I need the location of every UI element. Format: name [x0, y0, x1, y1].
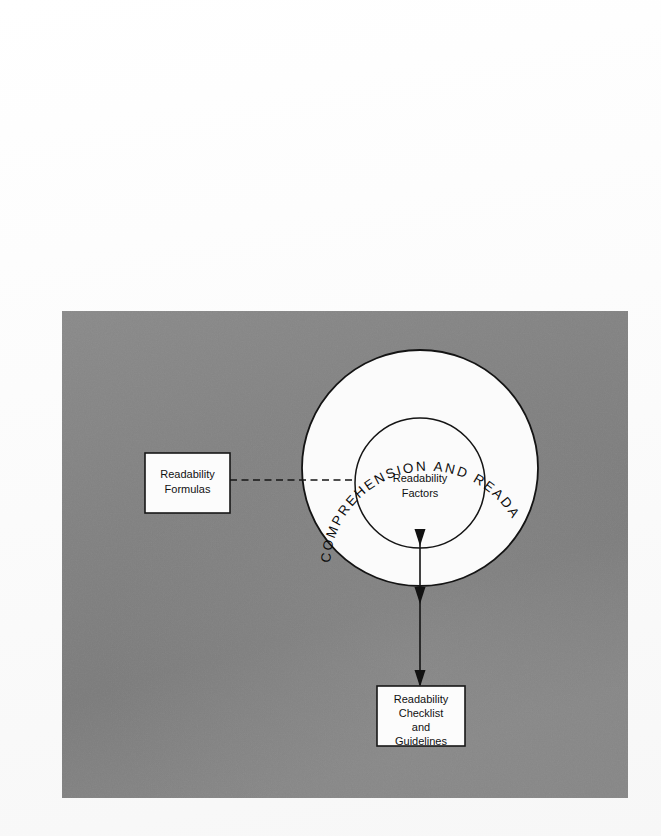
- inner-circle-label-line-1: Readability: [393, 472, 448, 484]
- left-box-label-line-1: Readability: [160, 468, 215, 480]
- page-canvas: COMPREHENSION AND READABILITY Readabilit…: [0, 0, 661, 836]
- diagram-svg: COMPREHENSION AND READABILITY Readabilit…: [62, 311, 628, 798]
- bottom-box-label-line-3: and: [412, 721, 430, 733]
- bottom-box-label-line-2: Checklist: [399, 707, 444, 719]
- left-box-readability-formulas: Readability Formulas: [145, 453, 230, 513]
- bottom-box-label-line-1: Readability: [394, 693, 449, 705]
- inner-circle-label-line-2: Factors: [402, 487, 439, 499]
- left-box-label-line-2: Formulas: [165, 483, 211, 495]
- bottom-box-label-line-4: Guidelines: [395, 735, 447, 747]
- figure-panel: COMPREHENSION AND READABILITY Readabilit…: [62, 311, 628, 798]
- bottom-box-readability-checklist-and-guidelines: Readability Checklist and Guidelines: [377, 686, 465, 747]
